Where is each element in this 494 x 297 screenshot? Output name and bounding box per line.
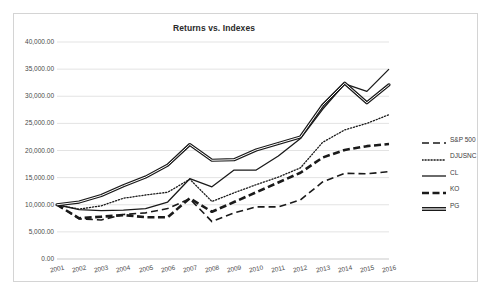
y-axis-tick-label: 0.00 (8, 255, 54, 262)
y-axis-tick-label: 30,000.00 (8, 92, 54, 99)
chart-legend: S&P 500DJUSNCCLKOPG (422, 131, 492, 214)
legend-item-label: DJUSNC (450, 152, 476, 159)
legend-swatch-icon (422, 184, 446, 194)
legend-item-label: KO (450, 185, 459, 192)
legend-item-pg[interactable]: PG (422, 197, 492, 214)
y-axis-tick-label: 5,000.00 (8, 228, 54, 235)
y-axis-tick-label: 15,000.00 (8, 174, 54, 181)
y-axis-tick-label: 20,000.00 (8, 147, 54, 154)
legend-swatch-icon (422, 200, 446, 210)
legend-swatch-icon (422, 134, 446, 144)
y-axis-tick-label: 40,000.00 (8, 38, 54, 45)
legend-item-label: PG (450, 202, 459, 209)
legend-item-djusnc[interactable]: DJUSNC (422, 148, 492, 165)
legend-item-label: CL (450, 169, 458, 176)
legend-item-label: S&P 500 (450, 136, 476, 143)
legend-item-s-p-500[interactable]: S&P 500 (422, 131, 492, 148)
chart-plot-area (14, 14, 479, 283)
legend-item-cl[interactable]: CL (422, 164, 492, 181)
y-axis-tick-label: 35,000.00 (8, 65, 54, 72)
legend-item-ko[interactable]: KO (422, 181, 492, 198)
legend-swatch-icon (422, 167, 446, 177)
y-axis-tick-label: 25,000.00 (8, 119, 54, 126)
chart-frame: Returns vs. Indexes 40,000.0035,000.0030… (13, 13, 478, 282)
legend-swatch-icon (422, 151, 446, 161)
y-axis-tick-label: 10,000.00 (8, 201, 54, 208)
